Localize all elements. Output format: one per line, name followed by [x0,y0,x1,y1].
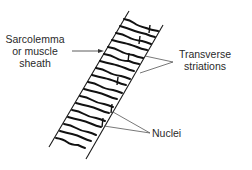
transverse-pointer [140,56,173,73]
sarcolemma-label: Sarcolemma or muscle sheath [2,33,68,69]
transverse-label-line2: striations [175,60,235,72]
sarcolemma-pointer [72,49,104,53]
nuclei-label: Nuclei [152,127,181,139]
transverse-striations-label: Transverse striations [175,48,235,72]
sarcolemma-label-line1: Sarcolemma [2,33,68,45]
fiber-left-edge [49,11,129,147]
sarcolemma-label-line2: or muscle [2,45,68,57]
transverse-label-line1: Transverse [175,48,235,60]
arrowhead-icon [98,49,104,53]
muscle-fiber-diagram [0,0,252,170]
sarcolemma-label-line3: sheath [2,57,68,69]
